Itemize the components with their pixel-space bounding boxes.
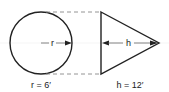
height-caption: h = 12′: [117, 80, 144, 90]
height-label: h: [126, 38, 131, 48]
radius-label: r: [51, 38, 54, 48]
radius-arrow: [41, 41, 72, 46]
arrowhead-left-icon: [102, 41, 109, 46]
cone-diagram: r h r = 6′ h = 12′: [0, 0, 169, 92]
radius-caption: r = 6′: [31, 80, 51, 90]
arrowhead-icon: [65, 41, 72, 46]
